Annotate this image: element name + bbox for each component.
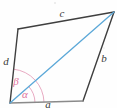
angle-beta-label: β <box>12 75 19 87</box>
scan-speck <box>54 2 56 4</box>
geometry-figure: a b c d α β <box>0 0 117 108</box>
angle-alpha-arc <box>29 87 35 103</box>
side-d-label: d <box>3 55 9 67</box>
angle-alpha-label: α <box>22 88 28 100</box>
side-c-line <box>18 12 114 29</box>
figure-canvas: a b c d α β <box>0 0 117 108</box>
side-c-label: c <box>60 7 65 19</box>
side-a-label: a <box>45 98 51 108</box>
side-d-line <box>10 29 18 103</box>
side-b-label: b <box>101 52 107 64</box>
scan-speck <box>103 47 104 48</box>
